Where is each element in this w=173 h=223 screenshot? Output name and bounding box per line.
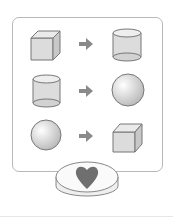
sphere-icon [112, 74, 144, 106]
arrow-right-icon [79, 85, 93, 97]
divider [0, 216, 173, 217]
arrow-right-icon [79, 38, 93, 50]
cube-icon [31, 31, 60, 60]
cylinder-icon [113, 29, 141, 61]
cube-icon [113, 124, 142, 152]
arrow-right-icon [79, 130, 93, 142]
diagram-canvas [0, 0, 173, 223]
sphere-icon [31, 120, 61, 150]
cylinder-icon [33, 75, 60, 107]
